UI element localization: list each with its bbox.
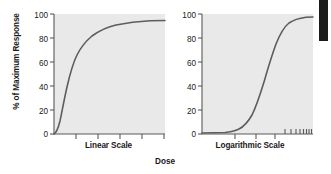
panel-logarithmic-scale: 100 80 60 40 20 0: [165, 5, 331, 145]
panel-caption-linear: Linear Scale: [52, 141, 165, 150]
y-tick-label-20: 20: [39, 107, 49, 116]
y-ticks-log: [198, 14, 202, 134]
y-tick-label-0: 0: [43, 130, 48, 139]
x-axis-title: Dose: [120, 157, 210, 166]
y-tick-label-80: 80: [187, 35, 197, 44]
y-tick-label-80: 80: [39, 35, 49, 44]
x-ticks-linear: [76, 134, 164, 139]
y-tick-label-60: 60: [187, 59, 197, 68]
plot-background-log: [202, 14, 313, 134]
panel-linear-scale: 100 80 60 40 20 0: [0, 5, 170, 145]
y-ticks-linear: [50, 14, 54, 134]
dose-response-figure: % of Maximum Response 100 80 60 40 20 0: [0, 0, 331, 174]
y-tick-label-20: 20: [187, 107, 197, 116]
y-tick-label-60: 60: [39, 59, 49, 68]
black-bar-marker: [319, 0, 328, 41]
y-tick-label-40: 40: [187, 83, 197, 92]
panel-caption-logarithmic: Logarithmic Scale: [190, 141, 310, 150]
y-tick-label-0: 0: [191, 130, 196, 139]
y-tick-label-100: 100: [34, 11, 48, 20]
y-tick-label-40: 40: [39, 83, 49, 92]
y-tick-label-100: 100: [182, 11, 196, 20]
